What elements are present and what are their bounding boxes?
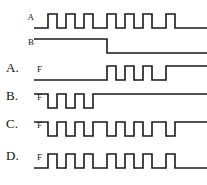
waveform-line-signal-b [34, 39, 207, 53]
waveform-row-option-b: B.FHigh with two low dips in first half,… [0, 88, 207, 115]
waveform-line-option-b [34, 94, 207, 108]
waveform-figure: AClock-like pulse train, six high pulses… [0, 0, 207, 185]
option-letter-option-a: A. [6, 60, 30, 76]
waveform-line-option-c [34, 122, 207, 136]
waveform-plot-signal-a: Clock-like pulse train, six high pulses [34, 8, 207, 35]
waveform-trace-signal-a: Clock-like pulse train, six high pulses [34, 8, 207, 35]
waveform-row-signal-a: AClock-like pulse train, six high pulses [0, 8, 207, 35]
signal-name-signal-a: A [22, 10, 34, 24]
waveform-plot-option-d: Pulse train identical to input A across … [34, 148, 207, 175]
waveform-row-option-d: D.FPulse train identical to input A acro… [0, 148, 207, 175]
waveform-line-option-d [34, 154, 207, 168]
signal-name-signal-b: B [22, 35, 34, 49]
waveform-row-signal-b: BHigh for first half, falls low at mid-p… [0, 33, 207, 60]
waveform-trace-option-c: Inverted pulse train across the full spa… [34, 116, 207, 143]
option-letter-option-c: C. [6, 116, 30, 132]
waveform-plot-option-c: Inverted pulse train across the full spa… [34, 116, 207, 143]
waveform-row-option-c: C.FInverted pulse train across the full … [0, 116, 207, 143]
waveform-trace-option-a: Low during first half, pulse train durin… [34, 60, 207, 87]
option-letter-option-d: D. [6, 148, 30, 164]
waveform-plot-signal-b: High for first half, falls low at mid-po… [34, 33, 207, 60]
waveform-trace-option-d: Pulse train identical to input A across … [34, 148, 207, 175]
waveform-line-option-a [34, 66, 207, 80]
waveform-trace-option-b: High with two low dips in first half, th… [34, 88, 207, 115]
waveform-line-signal-a [34, 14, 207, 28]
waveform-plot-option-a: Low during first half, pulse train durin… [34, 60, 207, 87]
waveform-row-option-a: A.FLow during first half, pulse train du… [0, 60, 207, 87]
waveform-plot-option-b: High with two low dips in first half, th… [34, 88, 207, 115]
option-letter-option-b: B. [6, 88, 30, 104]
waveform-trace-signal-b: High for first half, falls low at mid-po… [34, 33, 207, 60]
